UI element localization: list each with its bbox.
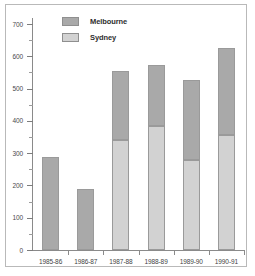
bar-1990-91[interactable] — [218, 48, 235, 250]
bar-segment-sydney-1988-89[interactable] — [148, 126, 165, 250]
bar-1987-88[interactable] — [112, 71, 129, 250]
bar-1986-87[interactable] — [77, 189, 94, 250]
y-tick-minor-650 — [29, 40, 33, 41]
bar-segment-melbourne-1985-86[interactable] — [42, 157, 59, 250]
legend-item-melbourne: Melbourne — [62, 15, 127, 28]
y-tick-200 — [27, 185, 33, 186]
y-tick-label-400: 400 — [0, 117, 23, 124]
y-tick-100 — [27, 218, 33, 219]
bar-1988-89[interactable] — [148, 65, 165, 250]
bar-segment-melbourne-1990-91[interactable] — [218, 48, 235, 136]
x-tick-1985-86 — [68, 251, 69, 255]
y-tick-600 — [27, 56, 33, 57]
y-axis-line — [32, 18, 33, 251]
x-tick-label-1990-91: 1990-91 — [203, 258, 249, 266]
bar-segment-melbourne-1986-87[interactable] — [77, 189, 94, 250]
bar-segment-sydney-1989-90[interactable] — [183, 160, 200, 250]
y-tick-minor-50 — [29, 234, 33, 235]
legend-swatch-melbourne — [62, 17, 79, 26]
stacked-bar-chart: 0100200300400500600700 1985-861986-87198… — [0, 0, 255, 276]
legend-label-melbourne: Melbourne — [90, 17, 127, 26]
chart-legend: Melbourne Sydney — [62, 15, 127, 47]
bar-segment-melbourne-1988-89[interactable] — [148, 65, 165, 126]
y-tick-label-100: 100 — [0, 214, 23, 221]
legend-item-sydney: Sydney — [62, 31, 127, 44]
x-tick-1988-89 — [174, 251, 175, 255]
x-tick-1990-91 — [244, 251, 245, 255]
legend-label-sydney: Sydney — [90, 33, 116, 42]
legend-swatch-sydney — [62, 33, 79, 42]
y-tick-label-500: 500 — [0, 85, 23, 92]
y-tick-label-600: 600 — [0, 53, 23, 60]
y-tick-minor-450 — [29, 105, 33, 106]
y-tick-minor-350 — [29, 137, 33, 138]
bar-segment-melbourne-1989-90[interactable] — [183, 80, 200, 160]
y-tick-minor-250 — [29, 169, 33, 170]
y-tick-300 — [27, 153, 33, 154]
bar-1985-86[interactable] — [42, 157, 59, 250]
y-tick-label-0: 0 — [0, 247, 23, 254]
x-tick-1986-87 — [103, 251, 104, 255]
x-tick-1987-88 — [139, 251, 140, 255]
y-tick-minor-550 — [29, 72, 33, 73]
bar-segment-sydney-1990-91[interactable] — [218, 135, 235, 250]
bar-segment-sydney-1987-88[interactable] — [112, 140, 129, 250]
bar-1989-90[interactable] — [183, 80, 200, 250]
y-tick-label-300: 300 — [0, 150, 23, 157]
y-tick-400 — [27, 121, 33, 122]
y-tick-700 — [27, 24, 33, 25]
y-tick-minor-150 — [29, 202, 33, 203]
bar-segment-melbourne-1987-88[interactable] — [112, 71, 129, 140]
y-tick-label-200: 200 — [0, 182, 23, 189]
y-tick-0 — [27, 250, 33, 251]
y-tick-label-700: 700 — [0, 21, 23, 28]
x-tick-1989-90 — [209, 251, 210, 255]
y-tick-500 — [27, 89, 33, 90]
